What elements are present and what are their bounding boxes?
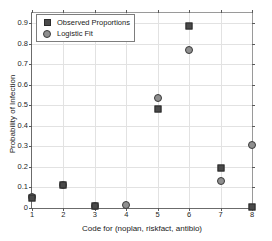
x-tick-label: 5	[156, 211, 160, 219]
x-tick-mark	[252, 10, 253, 13]
x-tick-label: 7	[218, 211, 222, 219]
y-tick-mark	[252, 23, 255, 24]
x-tick-label: 1	[30, 211, 34, 219]
data-marker-layer	[32, 13, 252, 208]
y-tick-mark	[252, 167, 255, 168]
legend-entry-observed: Observed Proportions	[40, 17, 130, 28]
x-tick-label: 6	[187, 211, 191, 219]
chart-legend: Observed Proportions Logistic Fit	[36, 14, 135, 42]
data-point-square	[29, 194, 36, 201]
y-tick-label: 0.2	[18, 163, 28, 171]
y-tick-mark	[252, 105, 255, 106]
legend-entry-fit: Logistic Fit	[40, 28, 130, 39]
square-marker-icon	[40, 19, 54, 26]
data-point-square	[217, 164, 224, 171]
y-tick-label: 0.3	[18, 143, 28, 151]
y-axis-title: Probability of Infection	[9, 49, 17, 179]
data-point-circle	[248, 141, 256, 149]
y-tick-label: 0.8	[18, 40, 28, 48]
y-tick-mark	[252, 187, 255, 188]
y-tick-label: 0.7	[18, 61, 28, 69]
data-point-circle	[154, 94, 162, 102]
data-point-square	[154, 106, 161, 113]
x-axis-title: Code for (noplan, riskfact, antibio)	[31, 225, 253, 233]
x-tick-label: 2	[61, 211, 65, 219]
y-tick-mark	[252, 126, 255, 127]
y-tick-label: 0.9	[18, 20, 28, 28]
x-tick-label: 8	[250, 211, 254, 219]
x-tick-label: 4	[124, 211, 128, 219]
y-tick-mark	[252, 85, 255, 86]
data-point-square	[186, 23, 193, 30]
y-tick-label: 0	[24, 204, 28, 212]
data-point-circle	[122, 201, 130, 209]
y-tick-label: 0.1	[18, 184, 28, 192]
data-point-square	[91, 202, 98, 209]
legend-label-fit: Logistic Fit	[57, 30, 93, 38]
data-point-square	[60, 182, 67, 189]
data-point-circle	[217, 177, 225, 185]
y-tick-label: 0.5	[18, 102, 28, 110]
legend-label-observed: Observed Proportions	[57, 19, 130, 27]
chart-figure: 00.10.20.30.40.50.60.70.80.912345678 Cod…	[0, 0, 272, 241]
y-tick-mark	[252, 44, 255, 45]
data-point-circle	[185, 46, 193, 54]
y-tick-mark	[252, 64, 255, 65]
y-tick-label: 0.6	[18, 81, 28, 89]
data-point-square	[249, 203, 256, 210]
y-tick-label: 0.4	[18, 122, 28, 130]
circle-marker-icon	[40, 30, 54, 38]
x-tick-label: 3	[93, 211, 97, 219]
